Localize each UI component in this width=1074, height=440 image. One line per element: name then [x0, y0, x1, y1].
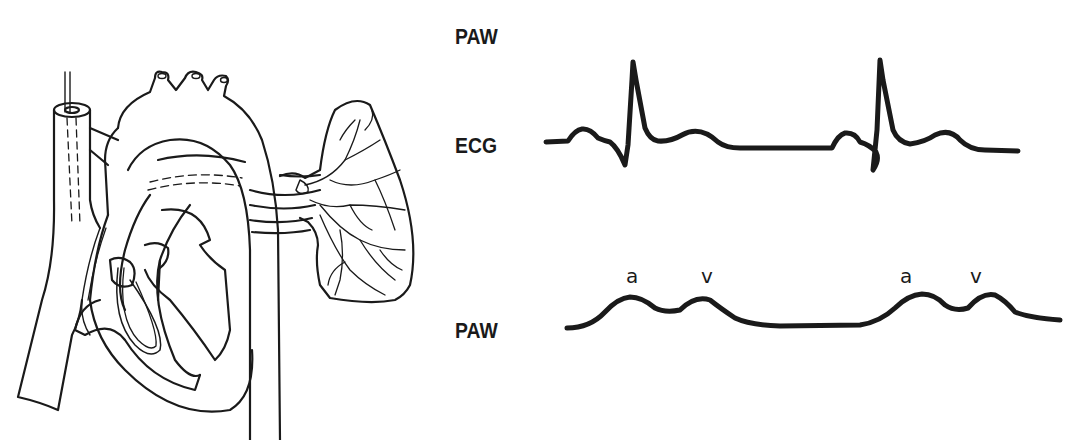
paw-v-wave-label-1: v: [701, 264, 713, 288]
heart-catheter-illustration: [0, 0, 440, 440]
top-paw-label: PAW: [455, 24, 498, 50]
paw-a-wave-label-2: a: [900, 264, 912, 288]
paw-label: PAW: [455, 318, 498, 344]
paw-v-wave-label-2: v: [970, 264, 982, 288]
paw-a-wave-label-1: a: [626, 264, 638, 288]
ecg-label: ECG: [455, 133, 497, 159]
